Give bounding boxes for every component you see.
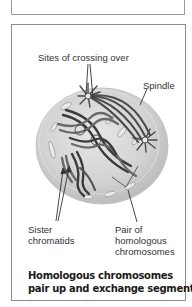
crossing-over-label: Sites of crossing over — [38, 52, 129, 63]
caption-line1: Homologous chromosomes — [28, 270, 192, 283]
figure-caption: Homologous chromosomes pair up and excha… — [28, 270, 192, 295]
sister-chromatids-label-line1: Sister — [28, 224, 52, 235]
homologous-label-line1: Pair of — [115, 224, 142, 235]
caption-line2: pair up and exchange segments. — [28, 283, 192, 296]
sister-chromatids-label-line2: chromatids — [28, 235, 74, 246]
spindle-label: Spindle — [143, 80, 175, 91]
homologous-label-line3: chromosomes — [115, 246, 175, 257]
meiosis-cell-diagram — [0, 0, 192, 307]
homologous-label-line2: homologous — [115, 235, 167, 246]
